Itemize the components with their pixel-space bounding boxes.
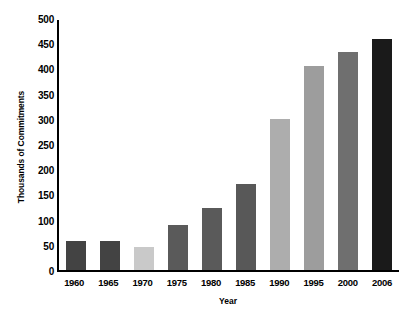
bar-slot bbox=[93, 20, 127, 270]
bar bbox=[338, 52, 358, 270]
bar bbox=[66, 241, 86, 270]
y-axis-tick-label: 300 bbox=[14, 116, 54, 126]
x-axis-tick-label: 2000 bbox=[331, 277, 365, 291]
bar-slot bbox=[161, 20, 195, 270]
y-axis-tick-label: 200 bbox=[14, 166, 54, 176]
bar-slot bbox=[195, 20, 229, 270]
y-axis-tick-label: 450 bbox=[14, 40, 54, 50]
x-axis-tick-label: 1960 bbox=[57, 277, 91, 291]
y-axis-tick-label: 350 bbox=[14, 91, 54, 101]
bar bbox=[304, 66, 324, 270]
bar-slot bbox=[59, 20, 93, 270]
x-axis-tick-label: 1985 bbox=[228, 277, 262, 291]
bar-slot bbox=[127, 20, 161, 270]
y-axis-tick-label: 0 bbox=[14, 267, 54, 277]
bar bbox=[134, 247, 154, 270]
y-axis-tick-label: 500 bbox=[14, 15, 54, 25]
bar-slot bbox=[331, 20, 365, 270]
y-axis-tick-label: 50 bbox=[14, 242, 54, 252]
bar-series bbox=[59, 20, 399, 270]
bar bbox=[236, 184, 256, 270]
bar bbox=[168, 225, 188, 270]
bar bbox=[100, 241, 120, 270]
x-axis-tick-label: 1980 bbox=[194, 277, 228, 291]
bar-slot bbox=[297, 20, 331, 270]
y-axis-tick-labels: 500450400350300250200150100500 bbox=[14, 0, 54, 319]
bar-slot bbox=[263, 20, 297, 270]
y-axis-tick-label: 100 bbox=[14, 217, 54, 227]
y-axis-tick-label: 250 bbox=[14, 141, 54, 151]
x-axis-tick-label: 1990 bbox=[262, 277, 296, 291]
x-axis-tick-labels: 1960196519701975198019851990199520002006 bbox=[57, 277, 399, 291]
bar-chart: Thousands of Commitments 500450400350300… bbox=[0, 0, 411, 319]
x-axis-title: Year bbox=[57, 296, 399, 306]
y-axis-tick-label: 400 bbox=[14, 65, 54, 75]
x-axis-tick-label: 1975 bbox=[160, 277, 194, 291]
x-axis-tick-label: 2006 bbox=[365, 277, 399, 291]
x-axis-tick-label: 1970 bbox=[125, 277, 159, 291]
bar bbox=[270, 119, 290, 270]
x-axis-tick-label: 1965 bbox=[91, 277, 125, 291]
bar bbox=[372, 39, 392, 270]
plot-area bbox=[57, 20, 399, 272]
bar-slot bbox=[229, 20, 263, 270]
y-axis-tick-label: 150 bbox=[14, 191, 54, 201]
x-axis-tick-label: 1995 bbox=[296, 277, 330, 291]
bar bbox=[202, 208, 222, 270]
bar-slot bbox=[365, 20, 399, 270]
